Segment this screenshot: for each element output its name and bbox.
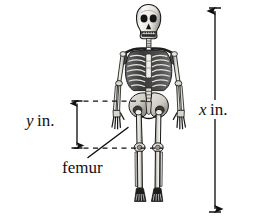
femur-leader-line xyxy=(88,128,128,158)
y-dimension-arrow xyxy=(72,101,83,148)
femur-label: femur xyxy=(62,159,103,176)
x-unit: in. xyxy=(210,100,227,119)
y-dimension-label: y in. xyxy=(26,112,54,129)
x-variable: x xyxy=(199,100,207,119)
y-unit: in. xyxy=(37,111,54,130)
y-variable: y xyxy=(26,111,34,130)
skeleton-dimension-figure: y in. x in. femur xyxy=(0,0,260,222)
x-dimension-label: x in. xyxy=(197,100,229,119)
guide-lines xyxy=(74,101,163,148)
